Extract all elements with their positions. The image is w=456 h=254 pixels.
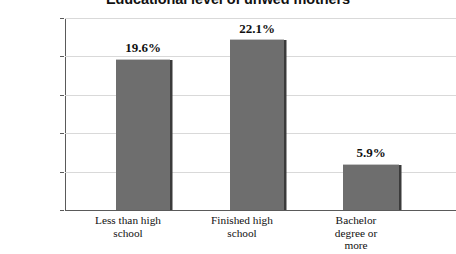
x-category-line: more [304,239,408,252]
x-category-label-less-than-high-school: Less than high school [76,214,180,239]
y-tick-mark-20 [60,56,64,57]
x-category-line: Bachelor [304,214,408,227]
bar-value-finished-high-school: 22.1% [222,21,292,37]
y-tick-mark-5 [60,172,64,173]
x-category-line: Finished high [190,214,294,227]
plot-area: 19.6% 22.1% 5.9% [65,18,456,210]
y-tick-mark-15 [60,95,64,96]
x-category-line: school [76,227,180,240]
bar-value-bachelor-degree-or-more: 5.9% [336,145,406,161]
chart-title: Educational level of unwed mothers [0,0,456,7]
bar-finished-high-school [230,40,284,210]
bar-less-than-high-school [116,60,170,211]
x-axis-baseline [65,210,456,211]
x-category-line: Less than high [76,214,180,227]
x-category-line: school [190,227,294,240]
gridline-25 [65,18,456,19]
y-tick-mark-0 [60,210,64,211]
x-category-label-finished-high-school: Finished high school [190,214,294,239]
bar-bachelor-degree-or-more [343,165,399,210]
x-category-line: degree or [304,227,408,240]
bar-value-less-than-high-school: 19.6% [108,40,178,56]
bar-chart: Educational level of unwed mothers Perce… [0,0,456,254]
x-category-label-bachelor-degree-or-more: Bachelor degree or more [304,214,408,252]
y-tick-mark-25 [60,18,64,19]
y-tick-mark-10 [60,133,64,134]
